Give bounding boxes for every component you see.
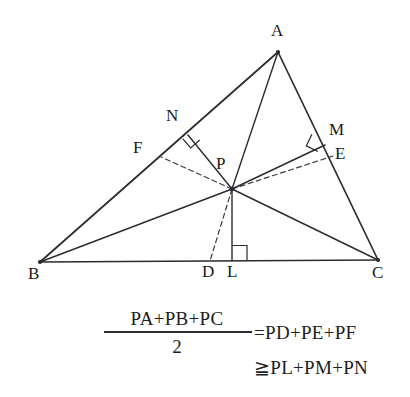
fraction-numerator: PA+PB+PC (106, 308, 248, 330)
right-angle-at-L (232, 246, 247, 261)
point-label-C: C (372, 264, 384, 281)
geometry-figure: A B C P N F M E D L (0, 0, 410, 300)
point-label-E: E (335, 145, 346, 162)
vertex-dot-C (376, 258, 380, 262)
point-label-N: N (166, 107, 179, 124)
point-label-A: A (271, 22, 284, 39)
point-label-D: D (202, 263, 215, 280)
formula-block: PA+PB+PC 2 =PD+PE+PF ≧PL+PM+PN (0, 300, 410, 397)
segment-PE (232, 156, 333, 189)
cevian-BP (40, 189, 232, 262)
cevian-CP (232, 189, 378, 260)
vertex-dot-A (276, 50, 280, 54)
fraction-denominator: 2 (106, 336, 248, 358)
point-dot-P (230, 187, 235, 192)
point-label-B: B (28, 265, 40, 282)
point-label-P: P (216, 155, 226, 172)
geometry-svg (0, 0, 410, 300)
fraction-bar (104, 331, 252, 333)
equality-expression: =PD+PE+PF (254, 322, 356, 344)
point-label-F: F (133, 139, 143, 156)
segment-PD (210, 189, 232, 261)
point-label-L: L (227, 263, 238, 280)
inequality-expression: ≧PL+PM+PN (254, 356, 368, 379)
perpendicular-PM (232, 145, 325, 189)
side-CA (278, 52, 378, 260)
figure-page: A B C P N F M E D L PA+PB+PC 2 =PD+PE+PF… (0, 0, 410, 397)
point-label-M: M (329, 121, 345, 138)
